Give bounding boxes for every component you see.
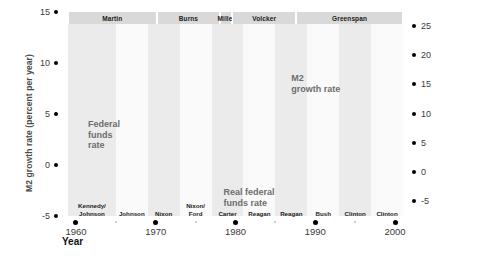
x-axis-title: Year (62, 236, 83, 247)
fed-chair-label: Burns (157, 12, 221, 24)
right-tick: -5 (412, 195, 441, 206)
chart-root: M2 growth rate (percent per year) Intere… (0, 0, 482, 256)
right-tick: 5 (412, 137, 441, 148)
annotation-label: Real federal funds rate (224, 187, 275, 208)
background-band (307, 12, 339, 216)
annotation-label: Federal funds rate (88, 119, 120, 151)
plot-area (68, 12, 403, 216)
x-tick: 1970 (136, 220, 176, 237)
background-band (116, 12, 148, 216)
left-tick: 10 (30, 57, 58, 68)
president-label: Bush (307, 196, 339, 218)
x-tick: 2000 (375, 220, 415, 237)
right-tick: 20 (412, 50, 441, 61)
fed-chair-strip: MartinBurnsMillerVolckerGreenspan (68, 12, 403, 24)
background-band (275, 12, 307, 216)
fed-chair-label: Volcker (232, 12, 296, 24)
x-tick-minor (96, 221, 136, 224)
x-tick-minor (255, 221, 295, 224)
left-tick: 5 (30, 108, 58, 119)
left-tick: -5 (30, 210, 58, 221)
x-tick: 1960 (56, 220, 96, 237)
x-tick: 1980 (216, 220, 256, 237)
president-label: Kennedy/ Johnson (68, 196, 116, 218)
background-band (339, 12, 371, 216)
right-tick: 15 (412, 79, 441, 90)
x-tick: 1990 (295, 220, 335, 237)
president-label: Reagan (275, 196, 307, 218)
background-band (243, 12, 275, 216)
president-label: Clinton (339, 196, 371, 218)
president-label: Clinton (371, 196, 403, 218)
left-tick: 15 (30, 6, 58, 17)
left-tick: 0 (30, 159, 58, 170)
background-band (180, 12, 212, 216)
x-tick-minor (335, 221, 375, 224)
background-band (371, 12, 403, 216)
background-band (68, 12, 116, 216)
background-band (148, 12, 180, 216)
fed-chair-label: Martin (68, 12, 157, 24)
president-label: Johnson (116, 196, 148, 218)
x-tick-minor (176, 221, 216, 224)
annotation-label: M2 growth rate (291, 73, 340, 94)
fed-chair-label: Greenspan (296, 12, 403, 24)
president-label: Nixon (148, 196, 180, 218)
fed-chair-label: Miller (220, 12, 232, 24)
president-label: Nixon/ Ford (180, 196, 212, 218)
right-tick: 0 (412, 166, 441, 177)
right-tick: 10 (412, 108, 441, 119)
right-tick: 25 (412, 21, 441, 32)
background-band (212, 12, 244, 216)
